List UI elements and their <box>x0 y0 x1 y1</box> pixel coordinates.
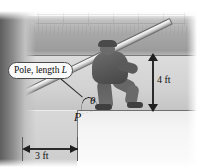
callout-symbol: L <box>62 65 67 75</box>
left-shadow-gradient <box>0 0 36 167</box>
right-fade <box>187 0 197 167</box>
callout-text: Pole, length <box>14 65 62 75</box>
point-p-label: P <box>74 110 81 125</box>
height-dimension-label: 4 ft <box>157 74 171 85</box>
ceiling-hatching <box>30 26 190 36</box>
bottom-fade <box>0 159 197 167</box>
width-arrow-right-icon <box>70 145 78 153</box>
top-fade <box>0 0 197 20</box>
height-arrow-down-icon <box>148 104 158 112</box>
width-dimension-label: 3 ft <box>35 150 49 161</box>
height-arrow-up-icon <box>148 53 158 61</box>
height-dimension-line <box>152 55 154 111</box>
physics-figure-pole-around-corner: θ P 4 ft 3 ft Pole, length L <box>0 0 197 167</box>
width-arrow-left-icon <box>22 145 30 153</box>
pole-callout-label: Pole, length L <box>8 62 73 79</box>
angle-label: θ <box>90 94 95 106</box>
